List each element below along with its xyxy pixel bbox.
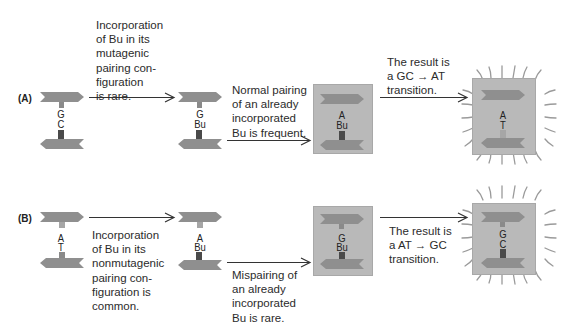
strand-bottom-icon bbox=[40, 139, 84, 149]
base-bottom: Bu bbox=[331, 120, 353, 130]
arrowhead-icon bbox=[165, 213, 175, 222]
arrowhead-icon bbox=[165, 93, 175, 102]
strand-bottom-icon bbox=[178, 260, 222, 270]
base-bottom: Bu bbox=[189, 119, 211, 129]
arrow-b2 bbox=[227, 262, 309, 263]
arrow-b2-text: Mispairing of an already incorporated Bu… bbox=[232, 268, 297, 325]
link-bottom bbox=[196, 252, 202, 260]
strand-top-icon bbox=[40, 92, 84, 102]
strand-bottom-icon bbox=[481, 258, 525, 268]
base-bottom: C bbox=[492, 239, 514, 249]
row-label-a: (A) bbox=[18, 93, 32, 104]
link-top bbox=[500, 222, 505, 227]
strand-bottom-icon bbox=[178, 139, 222, 149]
link-top bbox=[59, 222, 65, 228]
link-bottom bbox=[500, 249, 506, 258]
arrow-b1-text: Incorporation of Bu in its nonmutagenic … bbox=[92, 228, 164, 313]
strand-top-icon bbox=[40, 212, 84, 222]
strand-bottom-icon bbox=[40, 258, 84, 268]
arrow-a2 bbox=[227, 140, 309, 141]
base-bottom: T bbox=[50, 242, 72, 252]
strand-top-icon bbox=[178, 92, 222, 102]
strand-top-icon bbox=[481, 212, 525, 222]
link-top bbox=[339, 224, 344, 229]
link-bottom bbox=[58, 130, 64, 139]
strand-top-icon bbox=[178, 212, 222, 222]
link-bottom bbox=[196, 130, 202, 139]
base-bottom: Bu bbox=[189, 242, 211, 252]
strand-bottom-icon bbox=[481, 138, 525, 148]
arrow-b1 bbox=[89, 217, 173, 218]
link-bottom bbox=[500, 130, 506, 138]
base-bottom: T bbox=[492, 120, 514, 130]
strand-top-icon bbox=[320, 94, 364, 104]
strand-top-icon bbox=[320, 214, 364, 224]
base-bottom: Bu bbox=[331, 242, 353, 252]
base-bottom: C bbox=[50, 119, 72, 129]
arrow-a1-text: Incorporation of Bu in its mutagenic pai… bbox=[96, 18, 163, 103]
arrow-b3 bbox=[380, 217, 466, 218]
arrow-b3-text: The result is a AT → GC transition. bbox=[389, 224, 452, 267]
strand-bottom-icon bbox=[320, 259, 364, 269]
link-top bbox=[197, 222, 203, 228]
arrow-a2-text: Normal pairing of an already incorporate… bbox=[232, 83, 307, 140]
link-bottom bbox=[339, 131, 345, 140]
strand-bottom-icon bbox=[320, 140, 364, 150]
arrowhead-icon bbox=[301, 258, 311, 267]
row-label-b: (B) bbox=[18, 213, 32, 224]
strand-top-icon bbox=[481, 90, 525, 100]
arrow-a3-text: The result is a GC → AT transition. bbox=[387, 55, 450, 98]
